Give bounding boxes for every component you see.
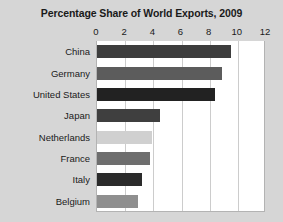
bar-row [97, 127, 264, 148]
category-label-row: France [0, 148, 93, 169]
category-label-row: Belgium [0, 191, 93, 212]
bar-chart-figure: Percentage Share of World Exports, 2009 … [0, 0, 283, 222]
category-label: Italy [73, 174, 93, 185]
bar-row [97, 105, 264, 126]
category-label-row: Netherlands [0, 127, 93, 148]
category-label: United States [33, 89, 93, 100]
category-label-row: Germany [0, 62, 93, 83]
x-axis-tick-labels: 024681012 [96, 26, 265, 40]
x-tick-label: 10 [232, 26, 243, 37]
bar-row [97, 62, 264, 83]
category-label: Japan [64, 110, 93, 121]
x-tick-label: 2 [122, 26, 127, 37]
bar-row [97, 84, 264, 105]
bar-row [97, 169, 264, 190]
x-tick-label: 6 [178, 26, 183, 37]
category-label: Netherlands [39, 132, 93, 143]
bar[interactable] [97, 173, 142, 186]
bar-row [97, 191, 264, 212]
category-label: Germany [51, 68, 93, 79]
bar[interactable] [97, 45, 231, 58]
chart-title: Percentage Share of World Exports, 2009 [0, 7, 283, 19]
bar[interactable] [97, 195, 138, 208]
category-axis-labels: ChinaGermanyUnited StatesJapanNetherland… [0, 41, 93, 212]
bar[interactable] [97, 67, 222, 80]
category-label: France [60, 153, 93, 164]
bar[interactable] [97, 152, 150, 165]
plot-area [96, 41, 265, 212]
x-tick-label: 0 [93, 26, 98, 37]
x-tick-label: 12 [260, 26, 271, 37]
bar[interactable] [97, 131, 152, 144]
category-label: Belgium [56, 196, 93, 207]
x-tick-label: 8 [206, 26, 211, 37]
category-label: China [65, 46, 93, 57]
bar[interactable] [97, 109, 160, 122]
bar-row [97, 41, 264, 62]
bars-container [97, 41, 264, 211]
bar-row [97, 148, 264, 169]
category-label-row: Japan [0, 105, 93, 126]
category-label-row: Italy [0, 169, 93, 190]
x-tick-label: 4 [150, 26, 155, 37]
bar[interactable] [97, 88, 215, 101]
category-label-row: United States [0, 84, 93, 105]
category-label-row: China [0, 41, 93, 62]
